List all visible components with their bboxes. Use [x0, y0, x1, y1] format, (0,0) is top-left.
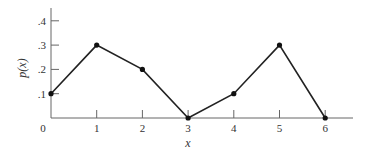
x-tick-label: 6	[322, 122, 328, 134]
x-tick-label: 2	[140, 122, 146, 134]
y-ticks: .1.2.3.4	[38, 15, 59, 100]
chart: .1.2.3.4 0123456 x p(x)	[0, 0, 370, 157]
data-point	[48, 91, 53, 96]
data-point	[323, 115, 328, 120]
x-tick-label: 0	[40, 122, 46, 134]
x-axis-label: x	[184, 136, 191, 150]
y-tick-label: .3	[38, 39, 47, 51]
data-point	[231, 91, 236, 96]
x-tick-label: 1	[94, 122, 100, 134]
data-point	[277, 43, 282, 48]
x-tick-label: 3	[185, 122, 191, 134]
y-tick-label: .1	[38, 88, 46, 100]
y-axis-label: p(x)	[15, 58, 29, 78]
y-tick-label: .4	[38, 15, 47, 27]
y-tick-label: .2	[38, 63, 46, 75]
data-point	[140, 67, 145, 72]
data-point	[94, 43, 99, 48]
x-tick-label: 4	[231, 122, 237, 134]
axes	[51, 8, 353, 118]
data-line	[51, 45, 325, 118]
data-point	[186, 115, 191, 120]
x-tick-label: 5	[277, 122, 283, 134]
